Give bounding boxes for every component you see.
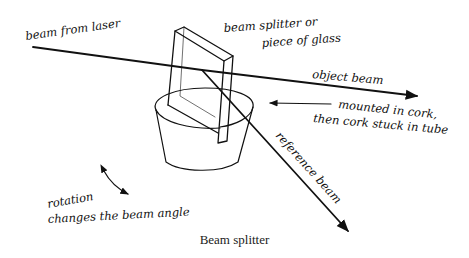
laser-beam — [33, 47, 202, 70]
mount-pointer-arrow — [270, 103, 331, 104]
label-rotation-2: changes the beam angle — [47, 205, 190, 226]
label-rotation-1: rotation — [46, 189, 94, 211]
object-beam — [202, 70, 417, 96]
glass-slab — [168, 27, 233, 143]
label-splitter-2: piece of glass — [261, 30, 341, 50]
reference-beam — [202, 70, 348, 231]
cork-mount — [155, 88, 253, 170]
figure-caption: Beam splitter — [0, 232, 469, 248]
beam-splitter-diagram: beam from laser beam splitter or piece o… — [0, 0, 469, 258]
label-reference-beam: reference beam — [273, 129, 345, 207]
label-splitter-1: beam splitter or — [223, 14, 319, 35]
rotation-arrow — [104, 171, 128, 194]
label-beam-from-laser: beam from laser — [24, 16, 122, 43]
